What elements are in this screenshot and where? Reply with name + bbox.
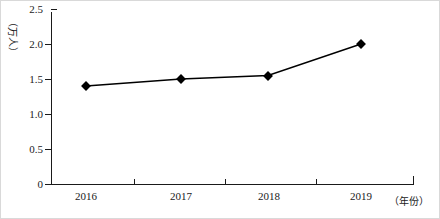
y-tick-1: 0.5 <box>1 144 43 155</box>
y-axis-line <box>51 12 52 184</box>
x-tick-mark-0 <box>134 179 135 184</box>
y-tick-2: 1.0 <box>1 109 43 120</box>
y-tick-mark-2 <box>45 114 51 115</box>
y-tick-mark-5 <box>51 9 57 10</box>
x-tick-label-2018: 2018 <box>239 191 299 202</box>
y-tick-mark-0 <box>45 184 51 185</box>
chart-screenshot: 0 0.5 1.0 1.5 2.0 2.5 （万人） 2016 2017 201… <box>0 0 440 219</box>
series-line-layer <box>1 1 440 219</box>
y-axis-title: （万人） <box>6 11 21 63</box>
x-tick-mark-end <box>413 176 414 184</box>
y-tick-mark-3 <box>45 79 51 80</box>
x-tick-mark-2 <box>316 179 317 184</box>
x-axis-title: （年份） <box>389 193 429 208</box>
y-tick-label-1: 0.5 <box>1 144 43 155</box>
x-tick-label-2019: 2019 <box>331 191 391 202</box>
x-tick-label-2016: 2016 <box>56 191 116 202</box>
y-tick-mark-1 <box>45 149 51 150</box>
data-point-2017 <box>176 74 186 84</box>
y-tick-0: 0 <box>1 179 43 190</box>
data-point-2019 <box>356 39 366 49</box>
x-tick-mark-1 <box>225 179 226 184</box>
data-point-2016 <box>81 81 91 91</box>
x-tick-label-2017: 2017 <box>151 191 211 202</box>
x-axis-line <box>51 184 414 185</box>
data-point-2018 <box>263 71 273 81</box>
y-tick-label-0: 0 <box>1 179 43 190</box>
y-tick-label-3: 1.5 <box>1 74 43 85</box>
y-tick-3: 1.5 <box>1 74 43 85</box>
y-tick-label-2: 1.0 <box>1 109 43 120</box>
y-tick-mark-4 <box>45 44 51 45</box>
